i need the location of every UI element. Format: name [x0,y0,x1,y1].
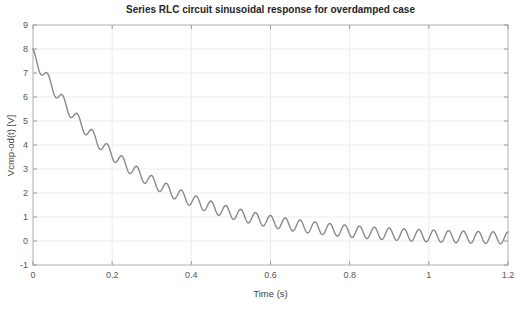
y-tick-label: 7 [23,68,28,78]
y-tick-label: 3 [23,164,28,174]
x-tick-label: 1 [426,270,431,280]
x-tick-label: 0 [30,270,35,280]
y-tick-label: 4 [23,140,28,150]
y-tick-label: 5 [23,116,28,126]
y-tick-label: 8 [23,44,28,54]
x-axis-label: Time (s) [33,288,508,299]
x-tick-label: 0.2 [106,270,119,280]
plot-area: 00.20.40.60.811.2-10123456789 [0,0,520,310]
y-tick-label: 9 [23,20,28,30]
figure-window: Series RLC circuit sinusoidal response f… [0,0,520,310]
y-tick-label: 2 [23,188,28,198]
x-tick-label: 0.8 [343,270,356,280]
y-tick-label: -1 [20,260,28,270]
x-tick-label: 0.4 [185,270,198,280]
x-tick-label: 1.2 [502,270,515,280]
y-tick-label: 1 [23,212,28,222]
x-tick-label: 0.6 [264,270,277,280]
y-tick-label: 0 [23,236,28,246]
y-tick-label: 6 [23,92,28,102]
